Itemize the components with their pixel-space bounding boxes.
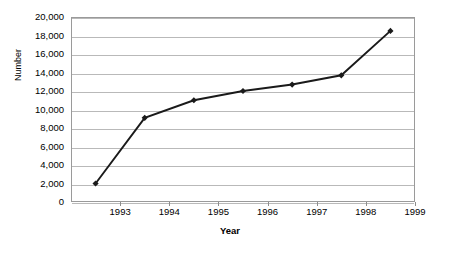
x-axis-tick-label: 1998 (346, 206, 386, 217)
grid-line (72, 55, 414, 56)
y-axis-tick-label: 20,000 (6, 12, 64, 22)
grid-line (72, 74, 414, 75)
plot-area (71, 17, 415, 202)
grid-line (72, 166, 414, 167)
x-axis-tick-label: 1996 (248, 206, 288, 217)
y-axis-tick-label: 2,000 (6, 179, 64, 189)
grid-line (72, 148, 414, 149)
grid-line (72, 18, 414, 19)
x-axis-tick-label: 1997 (297, 206, 337, 217)
y-axis-tick-label: 18,000 (6, 31, 64, 41)
grid-line (72, 185, 414, 186)
y-axis-tick-label: 14,000 (6, 68, 64, 78)
grid-line (72, 92, 414, 93)
y-axis-tick-label: 6,000 (6, 142, 64, 152)
y-axis-tick-label: 0 (6, 197, 64, 207)
x-axis-tick-label: 1993 (100, 206, 140, 217)
x-axis-title: Year (0, 225, 460, 236)
y-axis-tick-label: 12,000 (6, 86, 64, 96)
x-axis-tick-label: 1999 (395, 206, 435, 217)
y-axis-tick-label: 10,000 (6, 105, 64, 115)
y-axis-tick-label: 8,000 (6, 123, 64, 133)
grid-line (72, 37, 414, 38)
x-axis-tick-label: 1994 (149, 206, 189, 217)
grid-line (72, 203, 414, 204)
x-axis-tick-label: 1995 (198, 206, 238, 217)
grid-line (72, 129, 414, 130)
y-axis-tick-label: 4,000 (6, 160, 64, 170)
grid-line (72, 111, 414, 112)
y-axis-tick-label: 16,000 (6, 49, 64, 59)
line-chart: Number 20,00018,00016,00014,00012,00010,… (0, 0, 460, 253)
